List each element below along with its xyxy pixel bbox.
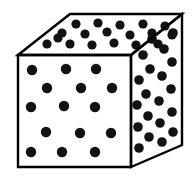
front-face-dot <box>76 83 86 93</box>
right-face-dot <box>154 96 164 106</box>
right-face-dot <box>132 100 142 110</box>
top-face-dot <box>87 40 96 49</box>
right-face-dot <box>141 89 151 99</box>
top-face-dot <box>102 27 111 36</box>
right-face-dot <box>167 107 177 117</box>
right-face-dot <box>157 71 167 81</box>
right-face-dot <box>144 132 154 142</box>
right-face-dot <box>145 64 155 74</box>
top-face-dot <box>138 19 147 28</box>
right-face-dot <box>155 118 165 128</box>
right-face-dot <box>159 44 169 54</box>
top-face-dot <box>42 39 51 48</box>
right-face-dot <box>134 75 144 85</box>
top-face-dot <box>65 39 74 48</box>
top-face-dot <box>109 38 118 47</box>
right-face-dot <box>157 137 167 147</box>
front-face-dot <box>90 147 100 157</box>
front-face-dot <box>42 83 52 93</box>
right-face-dot <box>167 57 177 67</box>
front-face-dot <box>61 64 71 74</box>
front-face-dot <box>59 101 69 111</box>
right-face-dot <box>138 50 148 60</box>
front-face-dot <box>26 102 36 112</box>
front-face-dot <box>41 127 51 137</box>
front-face-dot <box>57 147 67 157</box>
top-face-dot <box>115 20 124 29</box>
front-face-dot <box>75 128 85 138</box>
front-face-dot <box>91 64 101 74</box>
right-face-dot <box>143 111 153 121</box>
cube-figure: Black and white line drawing of a three-… <box>0 0 194 185</box>
front-face-dot <box>106 128 116 138</box>
front-face-dot <box>90 102 100 112</box>
top-face-dot <box>93 18 102 27</box>
front-face-dot <box>27 65 37 75</box>
top-face-dot <box>125 30 134 39</box>
front-face-dot <box>26 147 36 157</box>
cube-drawing <box>0 0 194 185</box>
top-face-dot <box>71 19 80 28</box>
top-face-dot <box>53 33 62 42</box>
right-face-dot <box>166 84 176 94</box>
right-face-dot <box>134 143 144 153</box>
front-face-dot <box>107 83 117 93</box>
right-face-dot <box>133 122 143 132</box>
right-face-dot <box>168 28 178 38</box>
top-face-dot <box>80 29 89 38</box>
right-face-dot <box>168 127 178 137</box>
